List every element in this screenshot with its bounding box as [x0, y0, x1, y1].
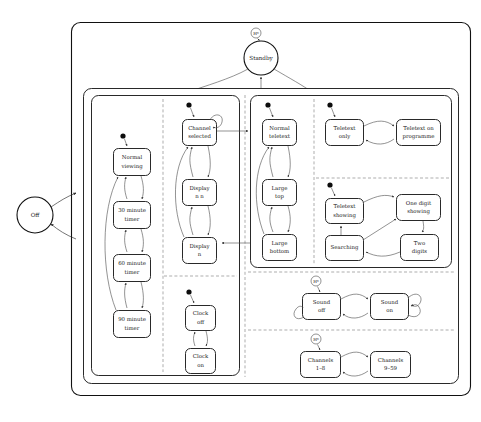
- initial-dot-clock-region: [186, 289, 191, 294]
- state-channel-selected[interactable]: [183, 120, 217, 146]
- state-large-top[interactable]: [263, 180, 297, 206]
- initial-dot-teletext-mode-region: [327, 102, 332, 107]
- state-clock-on[interactable]: [186, 349, 216, 374]
- initial-dot-picture-region: [265, 102, 270, 107]
- state-two-digits[interactable]: [401, 235, 439, 261]
- state-60-minute-timer[interactable]: [114, 255, 151, 282]
- state-sound-on[interactable]: [371, 294, 409, 320]
- state-sound-off[interactable]: [303, 294, 341, 320]
- state-90-minute-timer[interactable]: [114, 311, 151, 338]
- history-icon-standby: [251, 28, 261, 38]
- state-normal-teletext[interactable]: [263, 120, 297, 146]
- state-teletext-only[interactable]: [326, 120, 364, 146]
- state-display-nn[interactable]: [183, 180, 217, 206]
- initial-dot-channel-region: [186, 102, 191, 107]
- state-channels-1-8[interactable]: [301, 352, 341, 378]
- initial-dot-teletext-search-region: [327, 182, 332, 187]
- history-icon-channels: [311, 334, 321, 344]
- state-searching[interactable]: [326, 236, 364, 261]
- initial-dot-timer-region: [120, 133, 125, 138]
- state-normal-viewing[interactable]: [114, 149, 151, 176]
- statechart-diagram: Off Standby H* Normal viewing 30 minute …: [0, 0, 481, 422]
- state-clock-off[interactable]: [186, 306, 216, 331]
- state-teletext-showing[interactable]: [326, 199, 364, 224]
- state-teletext-on-programme[interactable]: [397, 120, 441, 146]
- state-display-n[interactable]: [183, 238, 217, 264]
- state-channels-9-59[interactable]: [371, 352, 411, 378]
- history-icon-sound: [311, 276, 321, 286]
- state-standby[interactable]: [244, 41, 278, 75]
- state-one-digit-showing[interactable]: [397, 195, 441, 221]
- state-30-minute-timer[interactable]: [114, 202, 151, 229]
- state-off[interactable]: [17, 197, 53, 233]
- statechart-canvas: Off Standby H* Normal viewing 30 minute …: [0, 0, 481, 422]
- state-large-bottom[interactable]: [263, 235, 297, 261]
